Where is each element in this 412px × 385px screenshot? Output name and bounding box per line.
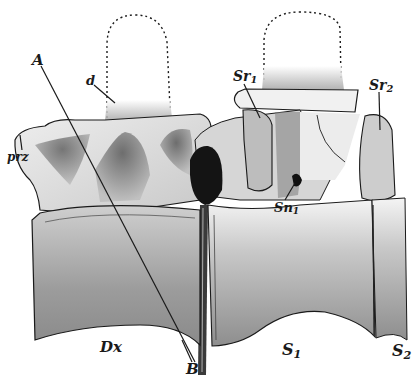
label-B: B (186, 362, 199, 377)
line-d (94, 85, 115, 103)
label-prz: prz (7, 151, 29, 163)
label-S2: S2 (392, 343, 411, 361)
label-Dx: Dx (100, 340, 122, 355)
sacral-1-arch (195, 110, 395, 201)
label-S1: S1 (282, 342, 301, 360)
sacral-top-bar (234, 89, 358, 112)
label-sn1: Sn1 (274, 201, 299, 215)
dorsal-neural-spine (105, 15, 172, 120)
sacral-rib-2 (360, 115, 395, 201)
sacral-rib-1 (243, 110, 272, 191)
label-A: A (32, 53, 44, 68)
sacral-centrum-2 (372, 198, 407, 340)
label-d: d (86, 74, 95, 87)
vertebrae-illustration (0, 0, 412, 385)
label-sr1: Sr1 (233, 69, 257, 85)
dorsal-neural-arch (15, 114, 211, 215)
line-B-stub (182, 340, 192, 362)
sacral-neural-spine (262, 12, 344, 90)
sacral-centrum-1 (208, 200, 375, 346)
label-sr2: Sr2 (369, 78, 393, 94)
